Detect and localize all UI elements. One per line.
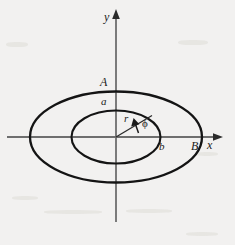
y-axis-label: y — [104, 11, 109, 23]
figure-canvas — [0, 0, 235, 245]
outer-semiaxis-y-label: A — [100, 76, 107, 88]
x-axis-label: x — [207, 139, 212, 151]
radius-label: r — [124, 113, 128, 124]
x-axis-arrowhead — [213, 133, 223, 140]
outer-semiaxis-x-label: B — [191, 140, 198, 152]
y-axis-arrowhead — [112, 9, 120, 19]
angle-arrow-head — [131, 118, 139, 126]
angle-phi-label: ϕ — [142, 118, 148, 129]
math-figure-ellipses: y x A a b B r ϕ — [0, 0, 235, 245]
inner-semiaxis-y-label: a — [101, 96, 107, 107]
inner-semiaxis-x-label: b — [159, 141, 165, 152]
